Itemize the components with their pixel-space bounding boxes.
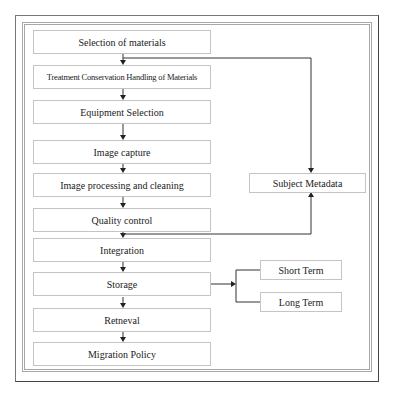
step-label: Retneval (104, 315, 140, 326)
step-equipment-selection: Equipment Selection (33, 100, 211, 124)
step-label: Equipment Selection (80, 107, 164, 118)
step-storage: Storage (33, 272, 211, 296)
step-retrieval: Retneval (33, 308, 211, 332)
node-label: Short Term (279, 265, 324, 276)
step-integration: Integration (33, 238, 211, 262)
step-migration-policy: Migration Policy (33, 342, 211, 366)
node-short-term: Short Term (260, 260, 342, 280)
step-label: Integration (100, 245, 144, 256)
node-label: Subject Metadata (273, 178, 343, 189)
node-subject-metadata: Subject Metadata (249, 173, 366, 193)
step-label: Treatment Conservation Handling of Mater… (47, 72, 197, 82)
step-treatment-conservation: Treatment Conservation Handling of Mater… (33, 65, 211, 89)
step-image-processing: Image processing and cleaning (33, 173, 211, 197)
step-label: Migration Policy (88, 349, 156, 360)
step-label: Image processing and cleaning (60, 180, 184, 191)
step-selection-of-materials: Selection of materials (33, 30, 211, 54)
step-image-capture: Image capture (33, 140, 211, 164)
step-label: Selection of materials (78, 37, 165, 48)
node-long-term: Long Term (260, 292, 342, 312)
step-quality-control: Quality control (33, 208, 211, 232)
step-label: Image capture (94, 147, 151, 158)
step-label: Quality control (92, 215, 153, 226)
node-label: Long Term (279, 297, 323, 308)
step-label: Storage (107, 279, 138, 290)
